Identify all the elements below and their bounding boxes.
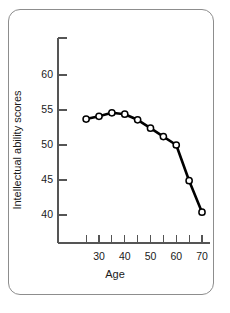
chart-axes [58,38,210,243]
data-point-marker [83,116,89,122]
y-axis-title: Intellectual ability scores [8,60,26,240]
y-tick-label: 45 [31,173,53,185]
x-tick-label: 30 [87,250,111,262]
y-tick-label: 40 [31,208,53,220]
x-tick-label: 40 [113,250,137,262]
chart-series-line [86,113,202,212]
x-axis-title: Age [0,268,230,280]
x-tick-label: 50 [139,250,163,262]
data-point-marker [135,117,141,123]
x-tick-label: 60 [164,250,188,262]
y-tick-label: 55 [31,103,53,115]
series-line-intellectual-ability [86,113,202,212]
y-axis-title-text: Intellectual ability scores [11,90,23,209]
data-point-marker [160,134,166,140]
chart-plot-area: 4045505560 3040506070 Intellectual abili… [0,0,230,313]
data-point-marker [122,111,128,117]
data-point-marker [173,142,179,148]
data-point-marker [109,110,115,116]
data-point-marker [96,113,102,119]
data-point-marker [186,178,192,184]
y-tick-label: 60 [31,68,53,80]
data-point-marker [199,209,205,215]
data-point-marker [147,125,153,131]
chart-svg [0,0,230,313]
x-tick-label: 70 [190,250,214,262]
y-tick-label: 50 [31,138,53,150]
